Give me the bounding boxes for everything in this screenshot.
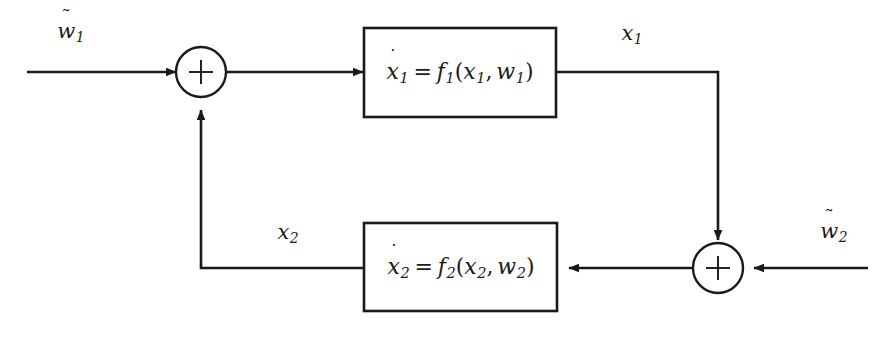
signal-label-output-1: x1 (621, 23, 642, 47)
signal-label-input-1-index: 1 (76, 29, 85, 45)
block-2-function: f (438, 254, 446, 279)
block-2-state: ˙x (387, 256, 399, 278)
signal-label-input-2: ˜w2 (820, 221, 847, 245)
block-1-function: f (437, 59, 445, 84)
dot-accent-icon: ˙ (390, 243, 399, 261)
signal-label-input-1-base: ˜w (57, 21, 75, 42)
block-1-state: ˙x (386, 61, 398, 83)
dot-accent-icon: ˙ (389, 48, 398, 66)
block-1-function-index: 1 (445, 70, 454, 86)
diagram-canvas (0, 0, 889, 337)
signal-label-output-2-index: 2 (290, 230, 299, 246)
block-2-function-index: 2 (446, 265, 455, 281)
signal-label-output-2: x2 (277, 222, 298, 246)
block-2-state-index: 2 (400, 265, 409, 281)
block-2-equals: = (414, 254, 432, 279)
block-1-arg1-index: 1 (476, 70, 485, 86)
block-1-equals: = (413, 59, 431, 84)
signal-path-x1-feedforward (556, 72, 718, 240)
block-2-arg1: x (464, 254, 476, 279)
tilde-accent-icon: ˜ (61, 7, 71, 26)
block-1-equation: ˙x1=f1(x1,w1) (386, 61, 533, 86)
block-diagram: ˜w1 x1 ˜w2 x2 ˙x1=f1(x1,w1) ˙x2=f2(x2,w2… (0, 0, 889, 337)
tilde-accent-icon: ˜ (824, 207, 834, 226)
signal-label-output-1-index: 1 (634, 31, 643, 47)
block-2-equation: ˙x2=f2(x2,w2) (387, 256, 534, 281)
block-1-state-index: 1 (399, 70, 408, 86)
block-1-comma: , (485, 59, 492, 84)
block-2-comma: , (486, 254, 493, 279)
block-2-arg1-index: 2 (477, 265, 486, 281)
block-1-lparen: ( (455, 59, 464, 84)
block-1-rparen: ) (525, 59, 534, 84)
signal-label-output-1-base: x (621, 21, 633, 45)
signal-label-output-2-base: x (277, 220, 289, 244)
block-2-rparen: ) (526, 254, 535, 279)
block-1-arg2: w (496, 59, 515, 84)
block-2-lparen: ( (456, 254, 465, 279)
signal-label-input-1: ˜w1 (57, 21, 84, 45)
signal-label-input-2-index: 2 (839, 229, 848, 245)
block-1-arg1: x (463, 59, 475, 84)
block-2-arg2: w (497, 254, 516, 279)
signal-label-input-2-base: ˜w (820, 221, 838, 242)
